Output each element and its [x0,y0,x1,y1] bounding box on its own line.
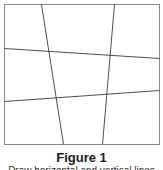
figure-diagram [0,0,163,150]
vertical-line-1 [42,5,64,145]
horizontal-lines [5,49,160,102]
vertical-lines [42,5,115,145]
figure-caption: Draw horizontal and vertical lines [0,165,163,170]
figure-title: Figure 1 [0,151,163,165]
vertical-line-2 [103,5,115,145]
figure-frame [5,5,160,145]
horizontal-line-2 [5,91,160,102]
horizontal-line-1 [5,49,160,59]
